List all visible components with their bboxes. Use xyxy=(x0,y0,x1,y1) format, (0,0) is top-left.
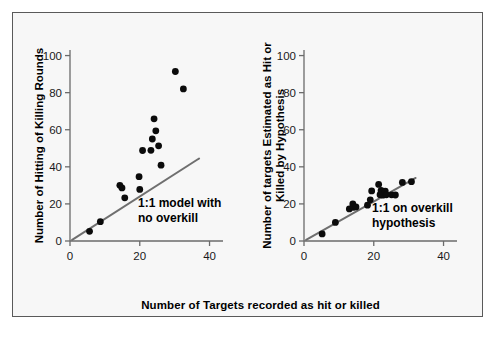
data-point xyxy=(136,186,143,193)
data-point xyxy=(155,142,162,149)
x-axis-title-label: Number of Targets recorded as hit or kil… xyxy=(141,299,380,311)
right-ytick-20: 20 xyxy=(283,198,296,210)
left-ytick-80: 80 xyxy=(49,87,62,99)
data-point xyxy=(139,147,146,154)
right-ytick-80: 80 xyxy=(283,87,296,99)
data-point xyxy=(353,203,360,210)
data-point xyxy=(136,173,143,180)
data-point xyxy=(399,179,406,186)
right-ytick-0: 0 xyxy=(290,235,296,247)
left-ytick-100: 100 xyxy=(43,50,62,62)
left-ytick-60: 60 xyxy=(49,124,62,136)
left-annotation-line-1: 1:1 model with xyxy=(138,196,221,210)
data-point xyxy=(158,162,165,169)
left-ytick-40: 40 xyxy=(49,161,62,173)
data-point xyxy=(172,68,179,75)
data-point xyxy=(152,127,159,134)
right-y-axis-title: Number of targets Estimated as Hit orKil… xyxy=(261,42,286,249)
data-point xyxy=(149,136,156,143)
figure-canvas: Number of Hitting of Killing Rounds 0204… xyxy=(0,0,495,337)
right-annotation-line-2: hypothesis xyxy=(372,216,436,230)
left-y-axis-title-line-1: Number of Hitting of Killing Rounds xyxy=(33,48,45,243)
data-point xyxy=(408,178,415,185)
left-annotation: 1:1 model withno overkill xyxy=(138,196,221,225)
data-point xyxy=(97,218,104,225)
figure-border: Number of Hitting of Killing Rounds 0204… xyxy=(12,12,483,317)
shared-x-axis-title: Number of Targets recorded as hit or kil… xyxy=(25,295,495,313)
left-annotation-line-2: no overkill xyxy=(138,211,198,225)
data-point xyxy=(332,219,339,226)
left-y-axis-title: Number of Hitting of Killing Rounds xyxy=(33,48,45,243)
right-y-axis-title-line-1: Number of targets Estimated as Hit or xyxy=(261,42,273,249)
right-xtick-20: 20 xyxy=(367,250,380,262)
right-xtick-0: 0 xyxy=(301,250,307,262)
left-xtick-20: 20 xyxy=(133,250,146,262)
data-point xyxy=(119,185,126,192)
data-point xyxy=(180,86,187,93)
data-point xyxy=(319,231,326,238)
right-plot-svg: Number of targets Estimated as Hit orKil… xyxy=(247,13,483,318)
right-ytick-40: 40 xyxy=(283,161,296,173)
left-plot-svg: Number of Hitting of Killing Rounds 0204… xyxy=(13,13,249,318)
data-point xyxy=(392,192,399,199)
data-point xyxy=(148,147,155,154)
right-ytick-60: 60 xyxy=(283,124,296,136)
left-tick-labels: 02040608010002040 xyxy=(43,50,216,262)
left-xtick-40: 40 xyxy=(203,250,216,262)
scatter-plot-left: Number of Hitting of Killing Rounds 0204… xyxy=(13,13,249,318)
data-point xyxy=(121,194,128,201)
data-point xyxy=(368,188,375,195)
right-annotation-line-1: 1:1 on overkill xyxy=(372,201,453,215)
scatter-plot-right: Number of targets Estimated as Hit orKil… xyxy=(247,13,483,318)
data-point xyxy=(151,115,158,122)
left-xtick-0: 0 xyxy=(67,250,73,262)
data-point xyxy=(86,228,93,235)
left-ytick-20: 20 xyxy=(49,198,62,210)
right-xtick-40: 40 xyxy=(437,250,450,262)
left-ytick-0: 0 xyxy=(56,235,62,247)
right-y-axis-title-line-2: Killed by Hypothesis xyxy=(274,89,286,202)
right-annotation: 1:1 on overkillhypothesis xyxy=(372,201,453,230)
right-ytick-100: 100 xyxy=(277,50,296,62)
data-point xyxy=(375,181,382,188)
